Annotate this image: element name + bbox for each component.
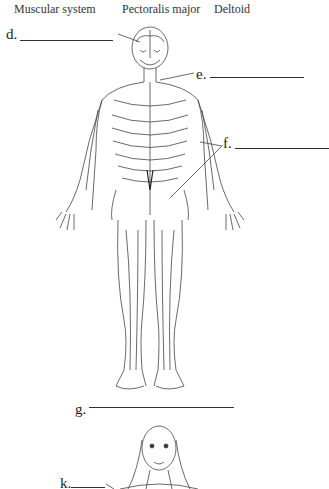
nervous-system-figure: [0, 0, 329, 489]
